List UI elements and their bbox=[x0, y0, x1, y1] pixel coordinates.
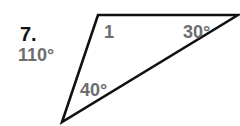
answer-hint: 110° bbox=[18, 46, 54, 64]
angle-30-label: 30° bbox=[183, 23, 210, 41]
problem-number: 7. bbox=[20, 24, 37, 44]
angle-1-label: 1 bbox=[104, 23, 114, 41]
triangle bbox=[62, 15, 238, 122]
angle-40-label: 40° bbox=[80, 81, 107, 99]
